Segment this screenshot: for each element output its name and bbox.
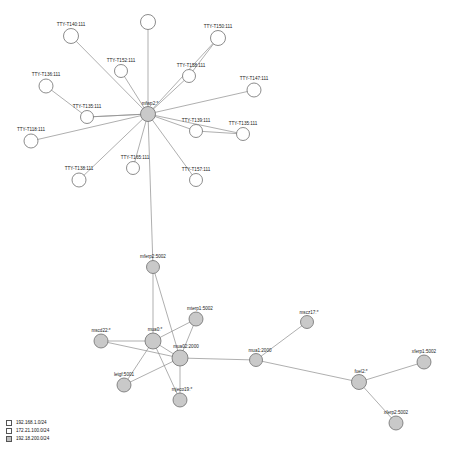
graph-node[interactable]: TTY-T135:111 [73, 104, 102, 124]
node-circle[interactable] [81, 111, 94, 124]
legend-item[interactable]: 192.168.1.0/24 [6, 419, 126, 426]
graph-node[interactable]: mua1:2000 [249, 348, 272, 367]
graph-edge [46, 86, 87, 117]
node-circle[interactable] [211, 31, 226, 46]
node-circle[interactable] [172, 350, 188, 366]
graph-edge [359, 362, 424, 382]
node-circle[interactable] [247, 83, 261, 97]
graph-node[interactable]: mscd22:* [91, 328, 110, 348]
node-circle[interactable] [94, 334, 108, 348]
node-circle[interactable] [389, 416, 403, 430]
node-label: TTY-T165:111 [121, 155, 150, 160]
graph-edge [180, 358, 256, 360]
node-label: TTY-T150:111 [204, 24, 233, 29]
node-circle[interactable] [145, 333, 161, 349]
node-label: TTY-T147:111 [240, 76, 269, 81]
legend-item[interactable]: 192.18.200.0/24 [6, 435, 126, 442]
node-circle[interactable] [141, 107, 156, 122]
node-label: mferp2:5002 [140, 254, 166, 259]
node-label: mua02:2000 [173, 344, 199, 349]
legend-swatch-icon [6, 420, 12, 426]
graph-node[interactable]: mfwp2:* [141, 101, 159, 122]
node-label: mjeco19:* [172, 387, 193, 392]
node-circle[interactable] [250, 354, 263, 367]
graph-edge [148, 114, 153, 267]
graph-node[interactable]: fuel2:* [352, 369, 368, 390]
graph-node[interactable]: TTY-T140:111 [57, 22, 86, 44]
graph-node[interactable]: mua0:* [145, 327, 162, 349]
node-label: mfwp2:* [142, 101, 159, 106]
node-label: letgf:5001 [114, 372, 135, 377]
node-label: TTY-T140:111 [57, 22, 86, 27]
graph-node[interactable]: xferp2:5002 [384, 410, 409, 430]
legend-label: 192.18.200.0/24 [16, 436, 49, 442]
node-circle[interactable] [352, 375, 367, 390]
node-label: TTY-T118:111 [17, 127, 46, 132]
graph-node[interactable]: TTY-T147:111 [240, 76, 269, 97]
graph-node[interactable] [141, 15, 156, 30]
graph-node[interactable]: TTY-T138:111 [65, 166, 94, 187]
node-layer: TTY-T140:111TTY-T150:111TTY-T152:111TTY-… [17, 15, 437, 431]
graph-node[interactable]: TTY-T135:111 [229, 121, 258, 141]
graph-node[interactable]: TTY-T136:111 [32, 72, 61, 93]
node-label: mua0:* [148, 327, 163, 332]
node-circle[interactable] [417, 355, 431, 369]
node-circle[interactable] [147, 261, 160, 274]
graph-node[interactable]: xferp1:5002 [412, 349, 437, 369]
node-label: mterp1:5002 [187, 306, 213, 311]
graph-edge [101, 341, 180, 358]
graph-edge [148, 90, 254, 114]
node-circle[interactable] [190, 125, 203, 138]
node-circle[interactable] [39, 79, 53, 93]
node-circle[interactable] [117, 378, 131, 392]
graph-node[interactable]: TTY-T118:111 [17, 127, 46, 148]
node-label: TTY-T135:111 [73, 104, 102, 109]
network-graph-canvas[interactable]: TTY-T140:111TTY-T150:111TTY-T152:111TTY-… [0, 0, 464, 460]
graph-node[interactable]: mua02:2000 [172, 344, 199, 366]
node-label: TTY-T152:111 [107, 58, 136, 63]
graph-node[interactable]: mferp2:5002 [140, 254, 166, 274]
node-label: xferp1:5002 [412, 349, 437, 354]
node-circle[interactable] [115, 65, 128, 78]
graph-edge [71, 36, 148, 114]
node-label: mua1:2000 [249, 348, 272, 353]
legend-item[interactable]: 172.21.100.0/24 [6, 427, 126, 434]
graph-edge [87, 114, 148, 117]
edge-layer [31, 22, 424, 423]
network-graph: TTY-T140:111TTY-T150:111TTY-T152:111TTY-… [0, 0, 464, 460]
node-circle[interactable] [64, 29, 79, 44]
graph-node[interactable]: TTY-T158:111 [177, 63, 206, 83]
graph-edge [359, 382, 396, 423]
graph-node[interactable]: mjeco19:* [172, 387, 193, 407]
graph-edge [148, 76, 189, 114]
node-circle[interactable] [301, 316, 314, 329]
node-circle[interactable] [237, 128, 250, 141]
graph-node[interactable]: TTY-T165:111 [121, 155, 150, 175]
graph-edge [256, 360, 359, 382]
node-label: TTY-T136:111 [32, 72, 61, 77]
graph-node[interactable]: TTY-T152:111 [107, 58, 136, 78]
node-label: mscz17:* [300, 310, 319, 315]
node-label: TTY-T139:111 [182, 118, 211, 123]
node-label: xferp2:5002 [384, 410, 409, 415]
node-circle[interactable] [127, 162, 140, 175]
legend: 192.168.1.0/24172.21.100.0/24192.18.200.… [6, 419, 126, 443]
node-label: TTY-T138:111 [65, 166, 94, 171]
graph-edge [256, 322, 307, 360]
node-circle[interactable] [183, 70, 196, 83]
node-circle[interactable] [189, 312, 203, 326]
node-circle[interactable] [24, 134, 38, 148]
graph-node[interactable]: mterp1:5002 [187, 306, 213, 326]
node-circle[interactable] [190, 174, 203, 187]
node-label: fuel2:* [354, 369, 367, 374]
graph-node[interactable]: mscz17:* [300, 310, 319, 329]
node-circle[interactable] [173, 393, 187, 407]
node-circle[interactable] [141, 15, 156, 30]
node-label: mscd22:* [91, 328, 110, 333]
node-circle[interactable] [72, 173, 86, 187]
graph-node[interactable]: TTY-T157:111 [182, 167, 211, 187]
graph-node[interactable]: TTY-T150:111 [204, 24, 233, 46]
legend-label: 172.21.100.0/24 [16, 428, 49, 434]
graph-node[interactable]: letgf:5001 [114, 372, 135, 392]
legend-swatch-icon [6, 428, 12, 434]
